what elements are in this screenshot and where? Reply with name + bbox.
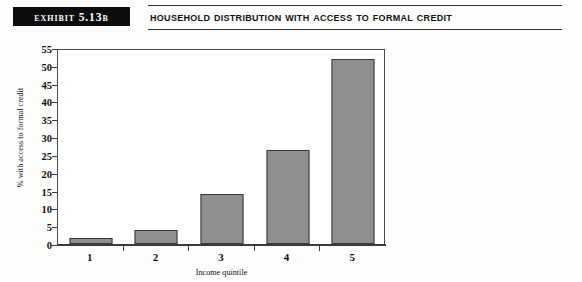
title-zone: HOUSEHOLD DISTRIBUTION WITH ACCESS TO FO… bbox=[148, 5, 568, 31]
y-axis-tick-labels: 0510152025303540455055 bbox=[12, 36, 52, 282]
y-axis-tick-label: 0 bbox=[18, 240, 52, 251]
bar bbox=[200, 194, 243, 244]
bar bbox=[332, 59, 375, 244]
y-axis-tick bbox=[52, 156, 57, 157]
x-axis-title: Income quintile bbox=[57, 268, 386, 277]
y-axis-tick bbox=[52, 138, 57, 139]
y-axis-tick-label: 5 bbox=[18, 222, 52, 233]
bar-slot bbox=[58, 50, 124, 244]
y-axis-tick bbox=[52, 120, 57, 121]
y-axis-tick bbox=[52, 49, 57, 50]
y-axis-tick-label: 15 bbox=[18, 186, 52, 197]
bar bbox=[266, 150, 309, 244]
x-axis-tick-label: 2 bbox=[135, 251, 175, 263]
x-axis-tick bbox=[188, 246, 189, 251]
bar-slot bbox=[124, 50, 190, 244]
plot-inner bbox=[58, 50, 384, 244]
x-axis-tick bbox=[123, 246, 124, 251]
exhibit-header: EXHIBIT 5.13B HOUSEHOLD DISTRIBUTION WIT… bbox=[0, 0, 582, 36]
exhibit-number-box: EXHIBIT 5.13B bbox=[13, 7, 130, 26]
x-axis-tick-label: 5 bbox=[332, 251, 372, 263]
title-rule-bottom bbox=[148, 29, 562, 30]
y-axis-tick bbox=[52, 209, 57, 210]
x-axis-line bbox=[57, 244, 386, 246]
y-axis-tick bbox=[52, 85, 57, 86]
x-axis-tick bbox=[254, 246, 255, 251]
title-rule-top bbox=[148, 5, 562, 6]
x-axis-tick-label: 3 bbox=[201, 251, 241, 263]
y-axis-tick-label: 50 bbox=[18, 61, 52, 72]
exhibit-number-label: EXHIBIT 5.13B bbox=[34, 11, 108, 23]
y-axis-tick bbox=[52, 102, 57, 103]
exhibit-figure: EXHIBIT 5.13B HOUSEHOLD DISTRIBUTION WIT… bbox=[0, 0, 582, 282]
y-axis-tick-label: 10 bbox=[18, 204, 52, 215]
plot-frame bbox=[57, 49, 385, 245]
bar-slot bbox=[189, 50, 255, 244]
y-axis-tick-label: 55 bbox=[18, 44, 52, 55]
y-axis-tick bbox=[52, 227, 57, 228]
y-axis-tick bbox=[52, 245, 57, 246]
x-axis-tick bbox=[319, 246, 320, 251]
y-axis-tick-label: 25 bbox=[18, 150, 52, 161]
y-axis-tick bbox=[52, 174, 57, 175]
x-axis-tick-label: 4 bbox=[267, 251, 307, 263]
x-axis-tick-label: 1 bbox=[70, 251, 110, 263]
y-axis-tick-label: 40 bbox=[18, 97, 52, 108]
y-axis-tick-label: 35 bbox=[18, 115, 52, 126]
y-axis-tick-label: 20 bbox=[18, 168, 52, 179]
bar bbox=[135, 230, 178, 244]
chart-title: HOUSEHOLD DISTRIBUTION WITH ACCESS TO FO… bbox=[150, 10, 452, 24]
chart-area: % with access to formal credit 051015202… bbox=[0, 36, 582, 282]
y-axis-tick-label: 45 bbox=[18, 79, 52, 90]
y-axis-tick bbox=[52, 67, 57, 68]
y-axis-tick-label: 30 bbox=[18, 133, 52, 144]
bar-slot bbox=[255, 50, 321, 244]
bar-slot bbox=[320, 50, 386, 244]
y-axis-tick bbox=[52, 192, 57, 193]
